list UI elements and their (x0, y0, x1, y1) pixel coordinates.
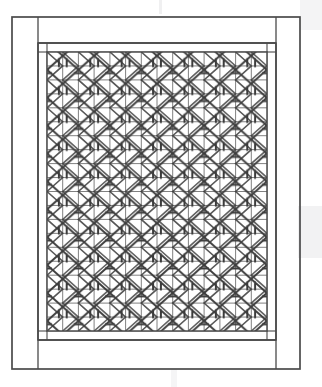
scan-patch-right-lower (298, 206, 322, 258)
lattice-field (47, 52, 267, 331)
scan-patch-right-upper (300, 0, 322, 30)
lattice-panel-drawing (0, 0, 322, 387)
figure-root: Lattice window panel (0, 0, 322, 387)
scan-edge-top (159, 0, 162, 14)
scan-line-bottom-halo (171, 369, 177, 387)
